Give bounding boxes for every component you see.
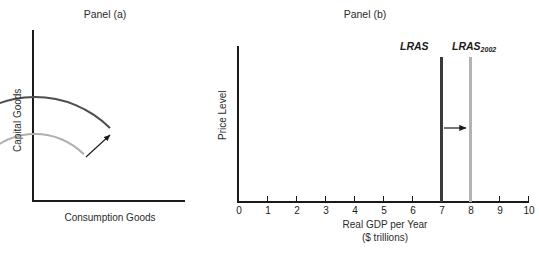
panel-b-tick-label-2: 2 xyxy=(287,205,307,216)
panel-b-tick-9 xyxy=(499,196,500,201)
panel-b-tick-label-10: 10 xyxy=(519,205,539,216)
panel-b-tick-4 xyxy=(354,196,355,201)
outward-shift-arrow xyxy=(0,0,200,220)
panel-b-x-axis-label-line1: Real GDP per Year xyxy=(300,219,470,230)
panel-b-tick-label-0: 0 xyxy=(229,205,249,216)
lras-shifted-label-subscript: 2002 xyxy=(481,46,497,53)
panel-b-tick-0 xyxy=(238,196,239,201)
panel-b-x-axis-label-line2: ($ trillions) xyxy=(300,232,470,243)
panel-b-tick-label-5: 5 xyxy=(374,205,394,216)
panel-b-y-axis xyxy=(237,46,239,203)
lras-shifted-label: LRAS2002 xyxy=(452,40,496,52)
panel-b-tick-label-1: 1 xyxy=(258,205,278,216)
panel-b-tick-10 xyxy=(528,196,529,201)
lras-initial-label: LRAS xyxy=(400,40,429,52)
lras-shifted-label-text: LRAS xyxy=(452,40,481,52)
panel-b-tick-label-9: 9 xyxy=(490,205,510,216)
panel-b-tick-label-7: 7 xyxy=(432,205,452,216)
panel-b-y-axis-label: Price Level xyxy=(217,91,228,140)
panel-b-tick-label-8: 8 xyxy=(461,205,481,216)
panel-b-title: Panel (b) xyxy=(320,8,410,20)
panel-b-tick-2 xyxy=(296,196,297,201)
panel-b-tick-5 xyxy=(383,196,384,201)
panel-b-tick-label-6: 6 xyxy=(403,205,423,216)
panel-b-tick-1 xyxy=(267,196,268,201)
panel-a-y-axis-label: Capital Goods xyxy=(12,89,23,152)
panel-a-x-axis-label: Consumption Goods xyxy=(45,212,175,223)
panel-b-tick-label-4: 4 xyxy=(345,205,365,216)
panel-b-tick-3 xyxy=(325,196,326,201)
panel-b-tick-label-3: 3 xyxy=(316,205,336,216)
rightward-shift-arrow xyxy=(430,110,490,150)
panel-b-tick-6 xyxy=(412,196,413,201)
panel-b-x-axis xyxy=(237,201,529,203)
